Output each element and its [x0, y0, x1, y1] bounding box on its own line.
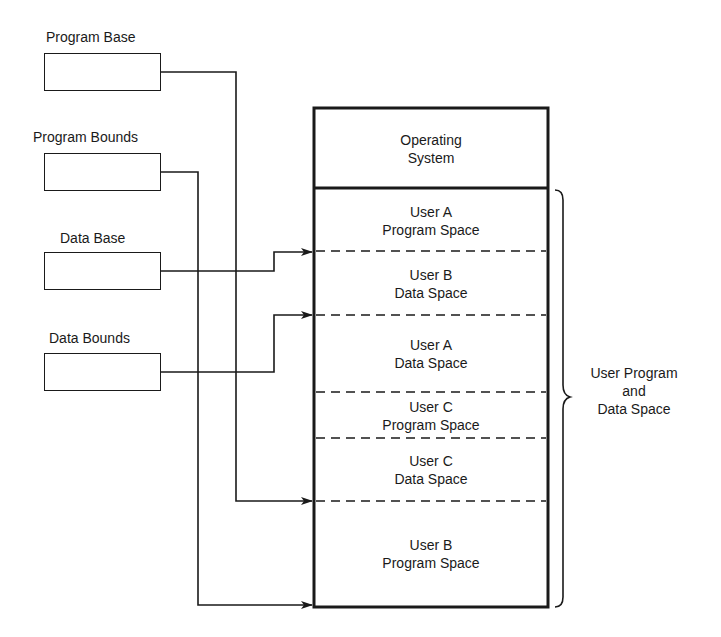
program-base-label: Program Base	[46, 29, 135, 45]
data-base-label: Data Base	[60, 230, 125, 246]
data-bounds-label: Data Bounds	[49, 330, 130, 346]
segment-line2: Data Space	[394, 470, 467, 488]
user-b-data-segment: User B Data Space	[316, 252, 546, 315]
program-base-connector	[160, 72, 312, 501]
segment-line2: Program Space	[382, 554, 479, 572]
brace-icon	[555, 190, 570, 607]
data-bounds-register	[44, 353, 161, 391]
segment-line1: User B	[410, 266, 453, 284]
user-a-program-segment: User A Program Space	[316, 190, 546, 251]
user-b-program-segment: User B Program Space	[316, 502, 546, 606]
brace-label-line3: Data Space	[574, 400, 694, 418]
segment-line2: Data Space	[394, 284, 467, 302]
user-space-brace-label: User Program and Data Space	[574, 364, 694, 418]
user-a-data-segment: User A Data Space	[316, 316, 546, 392]
segment-line1: User B	[410, 536, 453, 554]
brace-label-line1: User Program	[574, 364, 694, 382]
segment-line1: User C	[409, 398, 453, 416]
segment-line2: Program Space	[382, 221, 479, 239]
segment-line1: User A	[410, 336, 452, 354]
data-base-register	[44, 252, 161, 290]
segment-line2: Program Space	[382, 416, 479, 434]
program-base-register	[44, 53, 161, 91]
user-c-data-segment: User C Data Space	[316, 439, 546, 501]
program-bounds-label: Program Bounds	[33, 129, 138, 145]
user-c-program-segment: User C Program Space	[316, 393, 546, 438]
segment-line2: Data Space	[394, 354, 467, 372]
operating-system-segment: Operating System	[316, 110, 546, 188]
segment-line2: System	[408, 149, 455, 167]
program-bounds-register	[44, 153, 161, 191]
segment-line1: Operating	[400, 131, 461, 149]
brace-label-line2: and	[574, 382, 694, 400]
segment-line1: User C	[409, 452, 453, 470]
segment-line1: User A	[410, 203, 452, 221]
